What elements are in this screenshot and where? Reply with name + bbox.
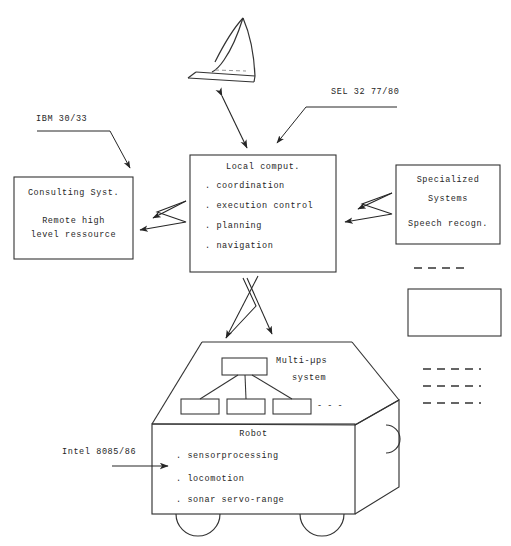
robot-wheel-front (176, 514, 220, 536)
local-computer-item-3: . navigation (205, 242, 273, 251)
consulting-box-title: Consulting Syst. (14, 189, 133, 198)
ibm-leader-line (37, 131, 130, 168)
multiups-tree (181, 358, 311, 414)
sel-leader-line (277, 107, 397, 143)
robot-title: Robot (152, 430, 355, 439)
robot-item-0: . sensorprocessing (176, 452, 279, 461)
tree-node-root (222, 358, 267, 375)
top-object-dashed-edge (215, 70, 246, 71)
label-multiups-line2: system (292, 374, 326, 383)
local-computer-item-0: . coordination (205, 182, 285, 191)
label-sel: SEL 32 77/80 (331, 88, 399, 97)
tree-continuation: - - - (317, 402, 343, 411)
tree-node-child-3 (273, 399, 311, 414)
label-multiups-line1: Multi-µps (276, 357, 327, 366)
specialized-line1: Specialized (396, 176, 500, 185)
local-computer-box-outline (190, 155, 336, 272)
local-computer-item-2: . planning (205, 222, 262, 231)
diagram-vector-layer (0, 0, 511, 546)
link-consulting-localcomputer (140, 201, 186, 230)
robot-wheel-rear (300, 514, 344, 536)
robot-item-2: . sonar servo-range (176, 496, 284, 505)
tree-node-child-2 (227, 399, 265, 414)
link-topobject-localcomputer (222, 96, 247, 148)
label-ibm: IBM 30/33 (36, 115, 87, 124)
local-computer-item-1: . execution control (205, 202, 313, 211)
tree-node-child-1 (181, 399, 219, 414)
consulting-box-line2: level ressource (14, 231, 133, 240)
label-intel: Intel 8085/86 (62, 448, 136, 457)
robot-body-outline (152, 341, 399, 514)
specialized-line2: Systems (396, 195, 500, 204)
robot-wheel-side (386, 425, 400, 453)
link-localcomputer-specialized (345, 193, 392, 222)
specialized-line3: Speech recogn. (396, 220, 500, 229)
robot-item-1: . locomotion (176, 475, 244, 484)
local-computer-title: Local comput. (190, 163, 336, 172)
diagram-canvas: IBM 30/33 SEL 32 77/80 Consulting Syst. … (0, 0, 511, 546)
consulting-box-line1: Remote high (14, 217, 133, 226)
link-localcomputer-robot (226, 276, 272, 338)
empty-box-outline (408, 289, 501, 336)
top-curved-object (188, 18, 255, 82)
